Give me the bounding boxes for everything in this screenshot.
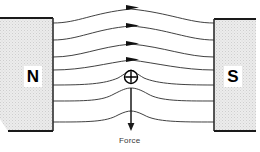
- magnet-north-label: N: [24, 66, 42, 87]
- field-line-4: [53, 60, 214, 70]
- field-arrowhead-group: [126, 5, 139, 62]
- field-line-6: [53, 88, 214, 101]
- magnet-south-label: S: [224, 66, 242, 87]
- positive-charge-icon: [125, 71, 138, 84]
- magnetic-field-diagram: N S Force: [0, 0, 260, 152]
- field-line-7: [53, 111, 214, 122]
- force-label: Force: [119, 137, 140, 145]
- field-line-1: [53, 9, 214, 23]
- field-arrowhead-3: [126, 41, 139, 46]
- down-arrow-icon: [128, 88, 135, 131]
- force-arrow-head: [128, 123, 135, 131]
- field-line-2: [53, 26, 214, 40]
- field-arrowhead-2: [126, 23, 139, 28]
- field-line-3: [53, 44, 214, 57]
